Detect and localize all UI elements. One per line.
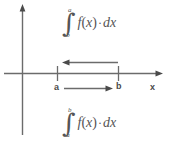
- arrow-left-to-right: [64, 85, 113, 91]
- x-axis-label: x: [150, 83, 155, 92]
- integral-lower-limit-bottom: a: [66, 132, 70, 139]
- integral-expression-top: a ∫ b f(x)·dx: [62, 8, 116, 38]
- integral-upper-limit-top: a: [68, 7, 72, 14]
- integral-upper-limit-bottom: b: [68, 107, 72, 114]
- integral-limit-reversal-figure: a ∫ b f(x)·dx b ∫ a f(x)·dx a b x: [0, 0, 173, 149]
- arrow-left-head-icon: [62, 59, 70, 65]
- integrand-bottom: f(x)·dx: [78, 116, 117, 130]
- integral-symbol-group-bottom: b ∫ a: [62, 108, 76, 138]
- point-label-a: a: [54, 83, 59, 92]
- x-axis-arrowhead-icon: [156, 70, 164, 76]
- integral-expression-bottom: b ∫ a f(x)·dx: [62, 108, 116, 138]
- differential-variable-bottom: x: [110, 115, 116, 130]
- y-axis-arrowhead-icon: [20, 4, 26, 12]
- integrand-top: f(x)·dx: [78, 16, 117, 30]
- arrow-right-to-left: [62, 59, 118, 65]
- differential-d-top: d: [103, 15, 110, 30]
- y-axis: [20, 4, 26, 135]
- differential-d-bottom: d: [103, 115, 110, 130]
- integral-lower-limit-top: b: [66, 32, 70, 39]
- integral-symbol-group-top: a ∫ b: [62, 8, 76, 38]
- x-axis: [4, 70, 163, 76]
- arrow-right-head-icon: [106, 85, 114, 91]
- point-label-b: b: [116, 82, 122, 91]
- differential-variable-top: x: [110, 15, 116, 30]
